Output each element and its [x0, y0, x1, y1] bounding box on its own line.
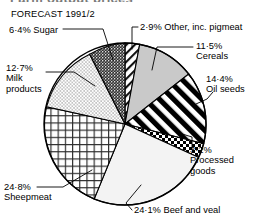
label-processed-line-0: 3·2% [190, 145, 234, 155]
label-processed-goods: 3·2% Processed goods [190, 145, 234, 176]
label-milk-products: 12·7% Milk products [6, 63, 42, 94]
label-sheepmeat: 24·8% Sheepmeat [4, 182, 52, 203]
label-milk-line-2: products [6, 84, 42, 94]
label-processed-line-1: Processed [190, 155, 234, 165]
label-other-line-0: 2·9% Other, inc. pigmeat [140, 22, 242, 32]
label-sugar: 6·4% Sugar [9, 25, 58, 35]
chart-canvas: Farm output prices FORECAST 1991/2 [0, 0, 266, 224]
label-cereals-line-1: Cereals [196, 51, 228, 61]
label-sheepmeat-line-0: 24·8% [4, 182, 52, 192]
label-sugar-line-0: 6·4% Sugar [9, 25, 58, 35]
label-other-inc-pigmeat: 2·9% Other, inc. pigmeat [140, 22, 242, 32]
label-beef-and-veal: 24·1% Beef and veal [134, 205, 220, 215]
label-oilseeds-line-0: 14·4% [206, 74, 245, 84]
label-sheepmeat-line-1: Sheepmeat [4, 192, 52, 202]
label-cereals: 11·5% Cereals [196, 41, 228, 62]
label-beef-line-0: 24·1% Beef and veal [134, 205, 220, 215]
label-oilseeds-line-1: Oil seeds [206, 84, 245, 94]
label-cereals-line-0: 11·5% [196, 41, 228, 51]
label-milk-line-1: Milk [6, 73, 42, 83]
label-processed-line-2: goods [190, 166, 234, 176]
label-oil-seeds: 14·4% Oil seeds [206, 74, 245, 95]
pie-slices [44, 43, 206, 205]
label-milk-line-0: 12·7% [6, 63, 42, 73]
